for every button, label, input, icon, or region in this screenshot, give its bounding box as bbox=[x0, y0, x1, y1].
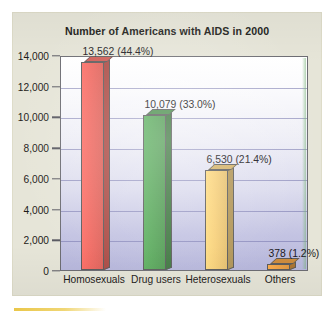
bar-side-face bbox=[104, 59, 110, 270]
y-axis-label: 2,000 bbox=[24, 235, 50, 246]
bar-side-face bbox=[228, 167, 234, 270]
y-axis-tick bbox=[52, 55, 60, 56]
x-axis-label: Heterosexuals bbox=[185, 274, 250, 285]
y-axis-label: 12,000 bbox=[18, 81, 49, 92]
x-axis-label: Drug users bbox=[131, 274, 181, 285]
bottom-accent-rule bbox=[14, 308, 106, 311]
x-axis-label: Others bbox=[265, 274, 296, 285]
y-axis-tick bbox=[52, 270, 60, 271]
data-label: 10,079 (33.0%) bbox=[145, 99, 216, 110]
data-label: 6,530 (21.4%) bbox=[207, 154, 272, 165]
page-root: Number of Americans with AIDS in 2000 02… bbox=[0, 0, 334, 316]
y-axis-label: 14,000 bbox=[18, 51, 49, 62]
x-axis: HomosexualsDrug usersHeterosexualsOthers bbox=[60, 274, 308, 292]
bar-heterosexuals[interactable] bbox=[205, 170, 228, 270]
bar-homosexuals[interactable] bbox=[81, 62, 104, 270]
y-axis-tick bbox=[52, 178, 60, 179]
bar-others[interactable] bbox=[267, 264, 290, 270]
y-axis-tick bbox=[52, 117, 60, 118]
y-axis: 02,0004,0006,0008,00010,00012,00014,000 bbox=[12, 56, 60, 271]
y-axis-label: 4,000 bbox=[24, 204, 50, 215]
data-label: 378 (1.2%) bbox=[269, 248, 320, 259]
x-axis-label: Homosexuals bbox=[63, 274, 125, 285]
chart-panel: Number of Americans with AIDS in 2000 02… bbox=[12, 12, 322, 296]
bar-front-face bbox=[143, 115, 166, 270]
y-axis-tick bbox=[52, 86, 60, 87]
bar-front-face bbox=[267, 264, 290, 270]
y-axis-tick bbox=[52, 147, 60, 148]
plot-edge-accent bbox=[302, 58, 306, 269]
y-axis-label: 10,000 bbox=[18, 112, 49, 123]
y-axis-tick bbox=[52, 240, 60, 241]
bar-front-face bbox=[205, 170, 228, 270]
bar-front-face bbox=[81, 62, 104, 270]
chart-title: Number of Americans with AIDS in 2000 bbox=[12, 25, 322, 37]
data-label: 13,562 (44.4%) bbox=[83, 46, 154, 57]
y-axis-label: 8,000 bbox=[24, 143, 50, 154]
y-axis-tick bbox=[52, 209, 60, 210]
y-axis-label: 0 bbox=[43, 266, 49, 277]
bar-side-face bbox=[166, 113, 172, 270]
bar-drug-users[interactable] bbox=[143, 115, 166, 270]
y-axis-label: 6,000 bbox=[24, 173, 50, 184]
